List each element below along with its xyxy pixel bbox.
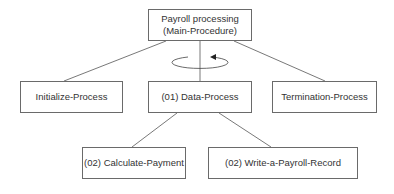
node-termination-process: Termination-Process [272,81,377,113]
node-write-payroll-record: (02) Write-a-Payroll-Record [208,147,358,179]
node-label: (Main-Procedure) [161,25,239,37]
node-label: Payroll processing [161,13,239,25]
node-label: Initialize-Process [36,91,108,103]
node-calculate-payment: (02) Calculate-Payment [82,147,186,179]
node-main-procedure: Payroll processing (Main-Procedure) [148,9,252,41]
node-label: (01) Data-Process [161,91,238,103]
node-label: (02) Calculate-Payment [84,157,184,169]
node-data-process: (01) Data-Process [148,81,252,113]
node-label: (02) Write-a-Payroll-Record [225,157,341,169]
node-label: Termination-Process [281,91,368,103]
node-initialize-process: Initialize-Process [20,81,123,113]
